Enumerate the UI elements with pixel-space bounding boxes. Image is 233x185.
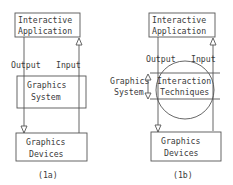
- input-label-a: Input: [56, 60, 81, 70]
- output-arrow-icon-b: [155, 125, 161, 132]
- diagram-b: Interactive Application Output Input Int…: [110, 13, 221, 180]
- top-box-line1-b: Interactive: [152, 15, 206, 25]
- caption-a: (1a): [38, 170, 58, 180]
- input-arrow-icon-a: [76, 38, 82, 45]
- side-label-line1-b: Graphics: [110, 76, 150, 86]
- top-box-line2-b: Application: [152, 26, 206, 36]
- span-arrow-down-icon: [145, 93, 151, 99]
- output-arrow-icon-a: [21, 126, 27, 133]
- top-box-line2-a: Application: [18, 26, 72, 36]
- output-label-a: Output: [11, 60, 41, 70]
- band-line2-b: Techniques: [160, 87, 209, 97]
- top-box-line1-a: Interactive: [18, 15, 72, 25]
- bottom-box-line2-a: Devices: [29, 149, 64, 159]
- caption-b: (1b): [173, 170, 193, 180]
- middle-box-line1-a: Graphics: [27, 80, 67, 90]
- middle-box-line2-a: System: [31, 92, 61, 102]
- band-line1-b: Interaction: [157, 76, 211, 86]
- diagram-canvas: Interactive Application Output Input Gra…: [0, 0, 233, 185]
- bottom-box-line1-a: Graphics: [26, 137, 66, 147]
- bottom-box-line2-b: Devices: [164, 148, 199, 158]
- output-label-b: Output: [146, 54, 176, 64]
- side-label-line2-b: System: [114, 87, 144, 97]
- bottom-box-line1-b: Graphics: [161, 136, 201, 146]
- input-arrow-icon-b: [210, 38, 216, 45]
- diagram-a: Interactive Application Output Input Gra…: [11, 13, 87, 180]
